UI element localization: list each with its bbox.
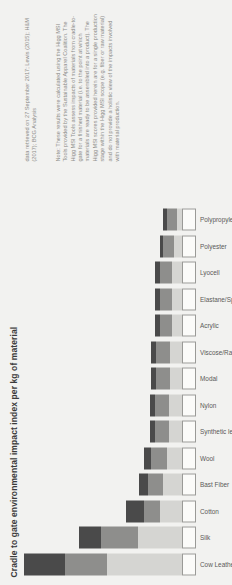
bar-segment-1 xyxy=(182,553,196,575)
bar-segment-4 xyxy=(79,527,101,549)
category-label-text: Cow Leather xyxy=(200,561,232,568)
bar-segment-1 xyxy=(182,262,196,284)
category-label-text: Wool xyxy=(200,455,214,462)
bar-nylon[interactable] xyxy=(24,394,196,416)
bar-segment-3 xyxy=(155,394,169,416)
bar-elastane-spandex[interactable] xyxy=(24,288,196,310)
category-label-text: Polypropylene xyxy=(200,216,232,223)
bar-segment-3 xyxy=(144,500,159,522)
category-label-cotton: Cotton xyxy=(198,500,232,522)
bar-segment-2 xyxy=(167,447,182,469)
bar-segment-3 xyxy=(65,553,106,575)
bar-segment-3 xyxy=(156,368,170,390)
bar-segment-2 xyxy=(174,235,183,257)
note-text: Note: These results were calculated usin… xyxy=(55,9,122,161)
bar-segment-1 xyxy=(182,235,196,257)
category-label-cow-leather: Cow Leather xyxy=(198,553,232,575)
bar-segment-2 xyxy=(169,394,183,416)
bar-polyester[interactable] xyxy=(24,235,196,257)
category-label-nylon: Nylon xyxy=(198,394,232,416)
bar-polypropylene[interactable] xyxy=(24,209,196,231)
bar-segment-2 xyxy=(170,341,182,363)
category-label-text: Nylon xyxy=(200,402,216,409)
bar-segment-3 xyxy=(151,447,166,469)
plot-area xyxy=(24,171,196,575)
category-label-silk: Silk xyxy=(198,527,232,549)
bar-segment-2 xyxy=(169,421,183,443)
bar-group xyxy=(24,171,196,575)
category-axis: Cow LeatherSilkCottonBast FiberWoolSynth… xyxy=(198,171,232,575)
bar-segment-1 xyxy=(182,341,196,363)
category-label-text: Cotton xyxy=(200,508,219,515)
bar-segment-2 xyxy=(160,500,182,522)
bar-segment-1 xyxy=(182,474,196,496)
category-label-polypropylene: Polypropylene xyxy=(198,209,232,231)
bar-segment-2 xyxy=(172,288,182,310)
bar-segment-1 xyxy=(182,209,196,231)
bar-segment-2 xyxy=(107,553,183,575)
bar-segment-3 xyxy=(101,527,137,549)
category-label-viscose-rayon: Viscose/Rayon xyxy=(198,341,232,363)
category-label-acrylic: Acrylic xyxy=(198,315,232,337)
category-label-text: Viscose/Rayon xyxy=(200,349,232,356)
bar-segment-3 xyxy=(167,209,177,231)
bar-viscose-rayon[interactable] xyxy=(24,341,196,363)
source-and-note-block: data retrieved on 27 September 2017; Lew… xyxy=(24,9,121,161)
bar-segment-2 xyxy=(170,368,182,390)
bar-lyocell[interactable] xyxy=(24,262,196,284)
bar-segment-1 xyxy=(182,368,196,390)
category-label-lyocell: Lyocell xyxy=(198,262,232,284)
category-label-elastane-spandex: Elastane/Spandex xyxy=(198,288,232,310)
bar-segment-3 xyxy=(160,288,172,310)
figure: Cradle to gate environmental impact inde… xyxy=(0,0,232,585)
bar-bast-fiber[interactable] xyxy=(24,474,196,496)
bar-segment-2 xyxy=(163,474,182,496)
bar-segment-1 xyxy=(182,500,196,522)
category-label-text: Bast Fiber xyxy=(200,481,229,488)
bar-cow-leather[interactable] xyxy=(24,553,196,575)
bar-segment-4 xyxy=(126,500,145,522)
category-label-polyester: Polyester xyxy=(198,235,232,257)
bar-segment-1 xyxy=(182,447,196,469)
bar-synthetic-leather[interactable] xyxy=(24,421,196,443)
category-label-synthetic-leather: Synthetic leather xyxy=(198,421,232,443)
bar-segment-3 xyxy=(163,235,173,257)
category-label-wool: Wool xyxy=(198,447,232,469)
category-label-text: Polyester xyxy=(200,243,227,250)
category-label-text: Modal xyxy=(200,375,217,382)
chart-stage: Cradle to gate environmental impact inde… xyxy=(0,0,232,585)
bar-segment-1 xyxy=(182,394,196,416)
category-label-text: Silk xyxy=(200,534,210,541)
bar-segment-3 xyxy=(155,421,169,443)
bar-acrylic[interactable] xyxy=(24,315,196,337)
bar-segment-1 xyxy=(182,421,196,443)
category-label-text: Synthetic leather xyxy=(200,428,232,435)
bar-segment-4 xyxy=(24,553,65,575)
bar-segment-1 xyxy=(182,315,196,337)
category-label-text: Lyocell xyxy=(200,269,220,276)
bar-segment-3 xyxy=(148,474,163,496)
bar-segment-1 xyxy=(182,288,196,310)
category-label-text: Elastane/Spandex xyxy=(200,296,232,303)
bar-segment-3 xyxy=(160,315,172,337)
bar-segment-4 xyxy=(144,447,151,469)
source-text: data retrieved on 27 September 2017; Lew… xyxy=(24,9,39,161)
category-label-modal: Modal xyxy=(198,368,232,390)
category-label-text: Acrylic xyxy=(200,322,219,329)
bar-cotton[interactable] xyxy=(24,500,196,522)
bar-segment-2 xyxy=(172,262,182,284)
bar-segment-4 xyxy=(139,474,148,496)
bar-segment-3 xyxy=(160,262,172,284)
bar-segment-1 xyxy=(182,527,196,549)
bar-segment-2 xyxy=(138,527,183,549)
chart-title: Cradle to gate environmental impact inde… xyxy=(9,326,19,577)
bar-silk[interactable] xyxy=(24,527,196,549)
bar-modal[interactable] xyxy=(24,368,196,390)
bar-segment-3 xyxy=(156,341,170,363)
bar-wool[interactable] xyxy=(24,447,196,469)
bar-segment-2 xyxy=(172,315,182,337)
category-label-bast-fiber: Bast Fiber xyxy=(198,474,232,496)
